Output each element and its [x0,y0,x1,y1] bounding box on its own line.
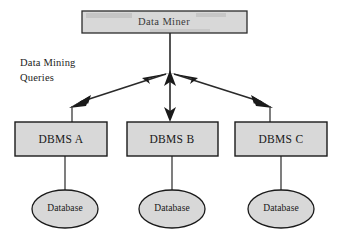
database-a-label: Database [47,203,83,213]
node-dbms-b[interactable]: DBMS B [127,122,218,156]
connector-hub-to-dbms-c [174,74,262,102]
data-miner-label: Data Miner [138,16,190,27]
dbms-b-label: DBMS B [150,133,195,145]
dbms-c-label: DBMS C [259,133,304,145]
connector-hub-to-dbms-a [80,74,166,102]
diagram-svg: Data Miner Data Mining Queries DBMS A DB… [0,0,340,246]
dbms-a-label: DBMS A [39,133,84,145]
node-dbms-c[interactable]: DBMS C [235,122,327,156]
node-database-a[interactable]: Database [32,190,98,228]
node-data-miner[interactable]: Data Miner [82,11,247,33]
database-c-label: Database [263,203,299,213]
node-database-b[interactable]: Database [139,190,205,228]
node-dbms-a[interactable]: DBMS A [15,122,107,156]
database-b-label: Database [154,203,190,213]
annotation-line-1: Data Mining [20,57,76,68]
annotation-line-2: Queries [20,72,54,83]
diagram-canvas: Data Miner Data Mining Queries DBMS A DB… [0,0,340,246]
node-database-c[interactable]: Database [248,190,314,228]
